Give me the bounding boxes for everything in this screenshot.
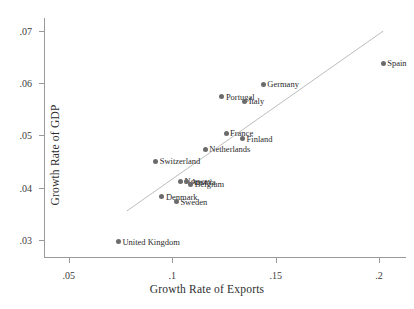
data-point-label: Spain [387,58,406,68]
data-point-label: Italy [249,96,265,106]
x-tick-label: .15 [269,270,282,281]
data-point [224,131,229,136]
y-tick-label: .03 [20,234,33,245]
data-point [174,199,179,204]
x-tick-label: .2 [375,270,383,281]
x-tick-label: .05 [63,270,76,281]
x-tick-label: .1 [169,270,177,281]
x-tick: .1 [172,258,173,263]
x-axis-title: Growth Rate of Exports [0,283,414,295]
chart-screenshot: .03.04.05.06.07 .05.1.15.2 SpainGermanyP… [0,0,414,309]
y-tick-label: .07 [20,26,33,37]
data-point [116,239,121,244]
data-point-label: Netherlands [209,144,250,154]
data-point-label: Finland [247,134,273,144]
data-point-label: Germany [267,79,299,89]
data-points-layer: SpainGermanyPortugalItalyFranceFinlandNe… [44,18,406,258]
data-point [219,94,224,99]
data-point [178,179,183,184]
x-tick: .05 [69,258,70,263]
data-point-label: Belgium [195,179,224,189]
y-tick-label: .05 [20,130,33,141]
y-tick-label: .04 [20,182,33,193]
data-point-label: Sweden [180,197,207,207]
data-point [203,147,208,152]
data-point-label: United Kingdom [122,237,179,247]
y-axis-title: Growth Rate of GDP [49,104,61,205]
data-point [381,61,386,66]
data-point [242,99,247,104]
x-tick: .2 [379,258,380,263]
data-point [153,159,158,164]
data-point [240,136,245,141]
plot-area: .03.04.05.06.07 .05.1.15.2 SpainGermanyP… [44,18,406,258]
y-tick-label: .06 [20,78,33,89]
data-point-label: Switzerland [160,156,201,166]
data-point [159,194,164,199]
x-tick: .15 [276,258,277,263]
data-point [261,82,266,87]
